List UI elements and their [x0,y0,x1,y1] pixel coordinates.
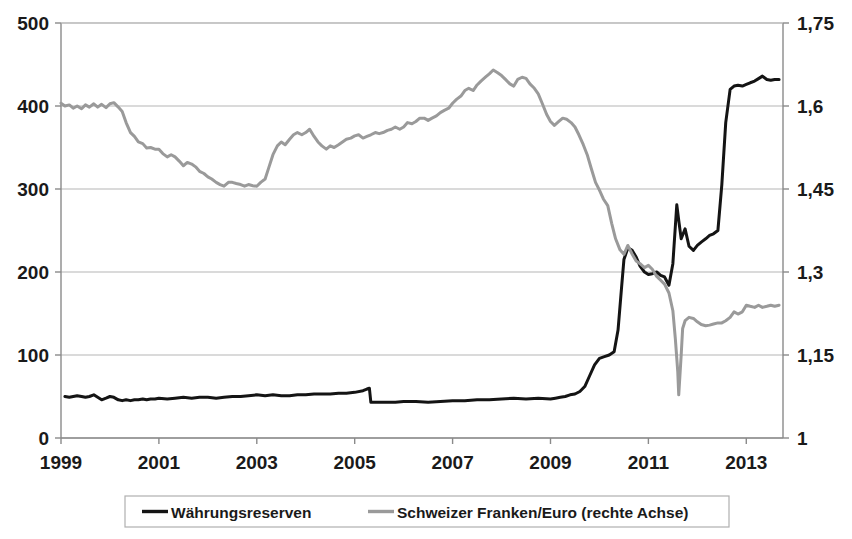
right-axis-tick-label: 1,3 [797,262,823,283]
chart-container: 0100200300400500 11,151,31,451,61,75 199… [0,0,852,539]
right-axis-tick-label: 1 [797,428,808,449]
x-axis-tick-label: 2007 [431,452,473,473]
right-axis-tick-label: 1,6 [797,96,823,117]
left-axis-tick-label: 0 [38,428,49,449]
currency-reserves-chart: 0100200300400500 11,151,31,451,61,75 199… [0,0,852,539]
x-axis-tick-label: 2001 [138,452,181,473]
right-axis-tick-label: 1,45 [797,179,834,200]
left-axis-tick-label: 400 [17,96,49,117]
left-axis-tick-label: 200 [17,262,49,283]
left-axis-tick-label: 500 [17,13,49,34]
chart-legend: WährungsreservenSchweizer Franken/Euro (… [125,496,729,527]
x-axis-tick-label: 2003 [236,452,278,473]
legend-label-1: Schweizer Franken/Euro (rechte Achse) [397,504,688,521]
left-axis-tick-label: 100 [17,345,49,366]
right-axis-tick-label: 1,15 [797,345,834,366]
legend-label-0: Währungsreserven [171,504,311,521]
x-axis-tick-label: 2011 [628,452,670,473]
x-axis-tick-label: 2009 [529,452,571,473]
right-axis-tick-label: 1,75 [797,13,834,34]
left-axis-tick-label: 300 [17,179,49,200]
x-axis-tick-label: 2005 [334,452,377,473]
x-axis-tick-label: 2013 [725,452,767,473]
x-axis-tick-label: 1999 [40,452,82,473]
